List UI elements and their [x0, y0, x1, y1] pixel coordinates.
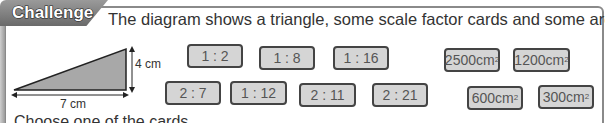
height-label: 4 cm	[135, 57, 161, 71]
challenge-tab-label: Challenge	[12, 3, 93, 23]
intro-text: The diagram shows a triangle, some scale…	[108, 10, 605, 29]
scale-card[interactable]: 2 : 11	[299, 83, 356, 107]
area-card[interactable]: 1200cm2	[513, 48, 570, 72]
scale-card[interactable]: 1 : 16	[333, 46, 389, 70]
scale-card[interactable]: 1 : 2	[187, 44, 243, 68]
scale-card[interactable]: 2 : 21	[372, 83, 428, 107]
scale-card[interactable]: 1 : 8	[259, 46, 315, 70]
area-card[interactable]: 600cm2	[467, 86, 523, 110]
scale-card[interactable]: 2 : 7	[165, 81, 221, 105]
base-label: 7 cm	[60, 97, 86, 111]
area-card[interactable]: 300cm2	[538, 85, 594, 109]
area-card[interactable]: 2500cm2	[444, 48, 500, 72]
question-text-partial: Choose one of the cards	[14, 113, 188, 123]
scale-card[interactable]: 1 : 12	[230, 81, 287, 105]
